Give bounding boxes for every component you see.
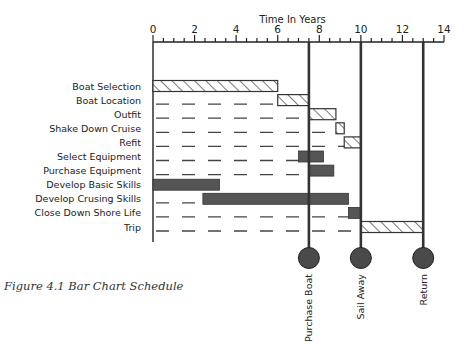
task-label: Develop Basic Skills (46, 179, 141, 190)
task-label: Boat Location (76, 95, 141, 106)
task-label: Refit (119, 137, 141, 148)
task-bar-solid (203, 193, 349, 204)
x-tick-label: 4 (233, 23, 240, 35)
task-bar-hatched (344, 137, 361, 148)
x-tick-label: 6 (274, 23, 281, 35)
task-label: Shake Down Cruise (49, 123, 141, 134)
task-bar-hatched (336, 123, 344, 134)
task-bar-solid (153, 179, 220, 190)
x-tick-label: 0 (150, 23, 157, 35)
task-label: Close Down Shore Life (35, 207, 142, 218)
x-tick-label: 12 (396, 23, 409, 35)
task-label: Boat Selection (72, 81, 141, 92)
milestone-marker-icon (350, 248, 371, 269)
x-tick-label: 14 (437, 23, 451, 35)
milestone-marker-icon (298, 248, 319, 269)
x-tick-label: 2 (191, 23, 198, 35)
figure-caption: Figure 4.1 Bar Chart Schedule (4, 279, 183, 293)
x-tick-label: 8 (316, 23, 323, 35)
milestone-marker-icon (413, 248, 434, 269)
x-tick-label: 10 (354, 23, 367, 35)
task-label: Outfit (114, 109, 141, 120)
task-bar-hatched (153, 81, 278, 92)
task-label: Select Equipment (57, 151, 141, 162)
bar-chart-schedule: Time In Years 02468101214 Boat Selection… (0, 0, 464, 350)
task-bar-solid (309, 165, 334, 176)
task-bar-hatched (361, 222, 423, 233)
task-label: Purchase Equipment (43, 165, 141, 176)
task-bar-hatched (278, 95, 309, 106)
milestone-label: Return (418, 274, 429, 306)
milestone-label: Sail Away (355, 274, 366, 320)
task-label: Develop Crusing Skills (35, 193, 141, 204)
task-bar-hatched (309, 109, 336, 120)
task-label: Trip (123, 222, 141, 233)
milestone-label: Purchase Boat (303, 274, 314, 342)
task-bar-solid (299, 151, 324, 162)
task-bar-solid (348, 207, 360, 218)
